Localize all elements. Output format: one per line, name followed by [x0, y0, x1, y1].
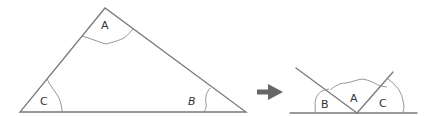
angle-c-label: C	[40, 95, 48, 108]
angle-b-label-moved: B	[321, 98, 329, 111]
triangle-figure: A C B	[20, 8, 246, 112]
angle-a-label-moved: A	[350, 92, 358, 105]
triangle-outline	[20, 8, 246, 112]
angle-c-arc-moved	[388, 79, 404, 113]
angle-a-label: A	[101, 19, 109, 32]
angle-b-arc	[204, 88, 210, 112]
angle-c-label-moved: C	[379, 97, 387, 110]
right-ray	[357, 72, 393, 113]
straight-line-figure: B A C	[290, 68, 417, 113]
angle-b-label: B	[188, 95, 196, 108]
angle-sum-diagram: A C B B A C	[0, 0, 433, 116]
right-arrow-icon	[257, 84, 283, 100]
angle-c-arc	[47, 79, 62, 112]
